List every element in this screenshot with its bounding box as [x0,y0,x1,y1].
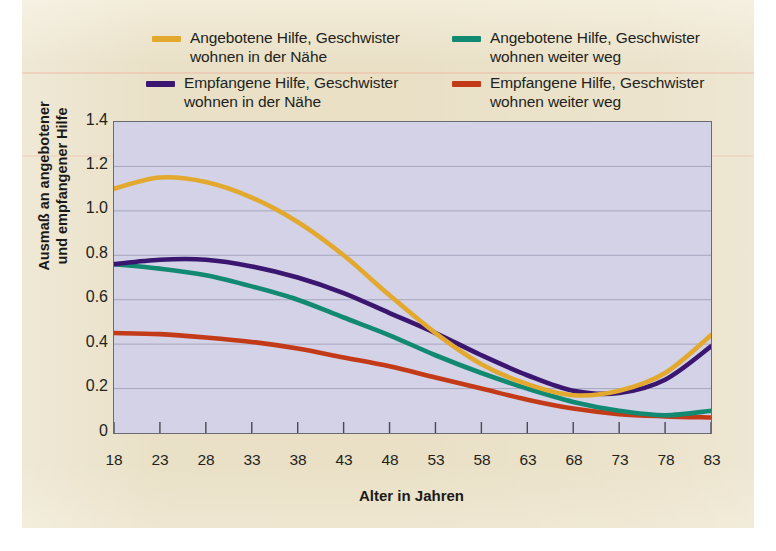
series-line [114,177,711,395]
x-tick-label: 38 [278,451,318,469]
x-tick-label: 63 [508,451,548,469]
plot-area [113,121,712,434]
x-tick-label: 78 [646,451,686,469]
x-tick-label: 68 [554,451,594,469]
x-tick-label: 18 [94,451,134,469]
x-axis-title: Alter in Jahren [113,487,710,504]
x-tick-label: 28 [186,451,226,469]
x-tick-label: 33 [232,451,272,469]
chart-canvas [114,122,711,433]
x-tick-label: 53 [416,451,456,469]
figure-root: Angebotene Hilfe, Geschwister wohnen in … [0,0,776,551]
x-tick-label: 23 [140,451,180,469]
x-tick-label: 43 [324,451,364,469]
x-tick-label: 73 [600,451,640,469]
x-tick-label: 83 [692,451,732,469]
x-tick-label: 58 [462,451,502,469]
x-tick-label: 48 [370,451,410,469]
